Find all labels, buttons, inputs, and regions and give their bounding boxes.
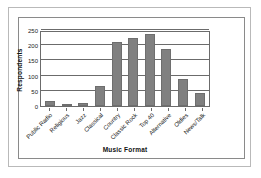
gridline (41, 29, 209, 30)
bar (145, 34, 155, 106)
x-tick: Oldies (176, 108, 193, 111)
y-tick-label: 0 (35, 103, 38, 111)
bar (161, 49, 171, 106)
bar (195, 93, 205, 106)
x-tick: News/Talk (193, 108, 210, 111)
bars-layer (41, 32, 209, 106)
x-tick-mark (168, 108, 169, 111)
x-tick-mark (185, 108, 186, 111)
plot-area (40, 31, 210, 107)
x-tick: Top 40 (142, 108, 159, 111)
y-tick-label: 50 (31, 88, 38, 96)
x-tick: Alternative (159, 108, 176, 111)
x-tick-mark (66, 108, 67, 111)
y-tick-label: 150 (28, 57, 38, 65)
x-tick-mark (117, 108, 118, 111)
bar (62, 104, 72, 106)
x-tick: Jazz (74, 108, 91, 111)
bar (112, 42, 122, 106)
bar (78, 103, 88, 106)
x-axis-title: Music Format (40, 146, 210, 153)
x-axis-tick-labels: Public RadioReligiousJazzClassicalCountr… (40, 108, 210, 148)
x-tick: Public Radio (40, 108, 57, 111)
x-tick-label: Jazz (74, 112, 88, 126)
y-axis-tick-labels: 050100150200250 (18, 25, 38, 113)
bar (45, 101, 55, 106)
x-tick: Religious (57, 108, 74, 111)
y-tick-label: 200 (28, 42, 38, 50)
x-tick-mark (100, 108, 101, 111)
x-tick-mark (151, 108, 152, 111)
figure-root: Respondents 050100150200250 Public Radio… (0, 0, 261, 178)
x-tick-mark (202, 108, 203, 111)
bar (95, 86, 105, 106)
x-tick: Classical (91, 108, 108, 111)
x-tick-mark (83, 108, 84, 111)
bar (178, 79, 188, 106)
y-tick-label: 250 (28, 27, 38, 35)
bar (128, 38, 138, 106)
y-tick-label: 100 (28, 73, 38, 81)
x-tick: Classic Rock (125, 108, 142, 111)
x-tick: Country (108, 108, 125, 111)
